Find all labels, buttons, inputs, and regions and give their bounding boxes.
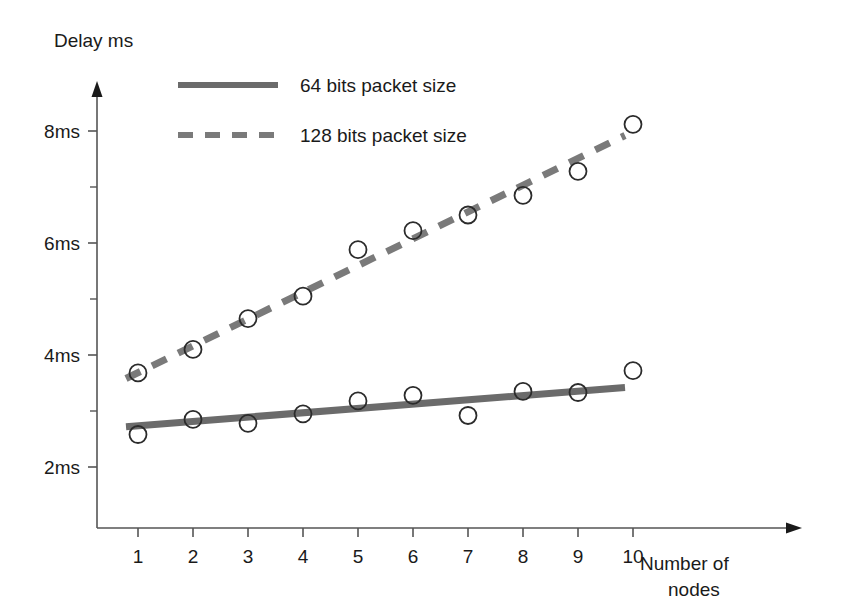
x-tick-label: 3 xyxy=(243,546,254,567)
data-point-marker xyxy=(240,310,257,327)
x-tick-label: 5 xyxy=(353,546,364,567)
data-point-marker xyxy=(515,187,532,204)
y-tick-label: 2ms xyxy=(44,457,80,478)
x-axis-title-line2: nodes xyxy=(668,579,720,600)
chart-legend: 64 bits packet size 128 bits packet size xyxy=(178,75,467,146)
y-axis-arrow-icon xyxy=(92,81,103,97)
x-tick-label: 1 xyxy=(133,546,144,567)
data-point-marker xyxy=(460,207,477,224)
y-axis-title: Delay ms xyxy=(54,30,133,51)
x-tick-label: 6 xyxy=(408,546,419,567)
y-tick-label: 6ms xyxy=(44,233,80,254)
x-tick-label: 9 xyxy=(573,546,584,567)
data-point-marker xyxy=(185,341,202,358)
data-point-marker xyxy=(295,288,312,305)
y-axis-ticks: 2ms4ms6ms8ms xyxy=(44,121,97,478)
data-point-marker xyxy=(130,364,147,381)
x-axis-title-line1: Number of xyxy=(640,553,729,574)
data-point-marker xyxy=(350,241,367,258)
x-tick-label: 2 xyxy=(188,546,199,567)
data-point-marker xyxy=(405,387,422,404)
data-point-marker xyxy=(460,407,477,424)
x-tick-label: 8 xyxy=(518,546,529,567)
legend-label-64-bits: 64 bits packet size xyxy=(300,75,456,96)
delay-vs-nodes-chart: Delay ms 2ms4ms6ms8ms 12345678910 Number… xyxy=(0,0,852,615)
data-point-marker xyxy=(185,411,202,428)
data-point-marker xyxy=(295,405,312,422)
series-trend-lines xyxy=(126,135,625,426)
x-axis-ticks: 12345678910 xyxy=(133,528,644,567)
data-point-marker xyxy=(570,163,587,180)
y-tick-label: 8ms xyxy=(44,121,80,142)
y-tick-label: 4ms xyxy=(44,345,80,366)
data-point-marker xyxy=(515,383,532,400)
x-tick-label: 4 xyxy=(298,546,309,567)
data-point-marker xyxy=(130,426,147,443)
x-axis-arrow-icon xyxy=(786,523,802,534)
data-point-marker xyxy=(625,116,642,133)
data-point-marker xyxy=(240,415,257,432)
series-line xyxy=(126,135,625,378)
axes xyxy=(92,81,803,534)
data-point-marker xyxy=(625,362,642,379)
data-point-marker xyxy=(570,384,587,401)
x-tick-label: 7 xyxy=(463,546,474,567)
data-point-marker xyxy=(405,222,422,239)
data-point-marker xyxy=(350,392,367,409)
legend-label-128-bits: 128 bits packet size xyxy=(300,125,467,146)
